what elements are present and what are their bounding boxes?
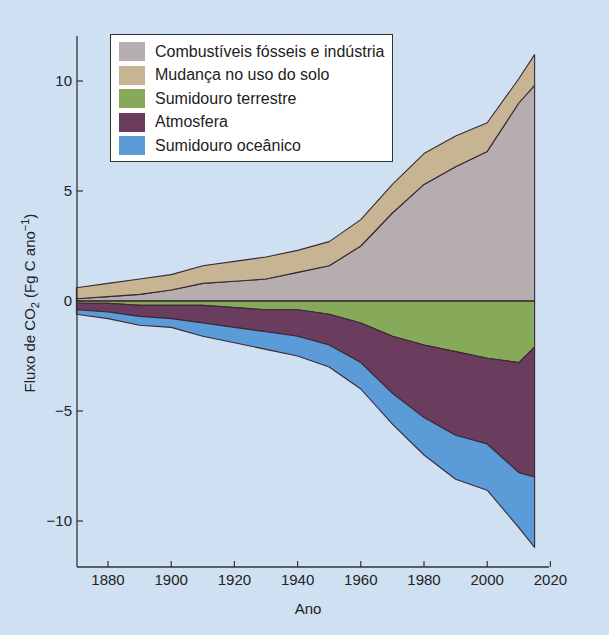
x-tick-label: 1900 (155, 571, 188, 588)
legend-swatch (119, 42, 145, 61)
legend-swatch (119, 136, 145, 155)
legend-swatch (119, 89, 145, 108)
legend-label: Mudança no uso do solo (155, 66, 329, 84)
y-tick-label: 5 (64, 182, 72, 199)
y-tick-label: 10 (55, 72, 72, 89)
x-tick-label: 1920 (218, 571, 251, 588)
legend-swatch (119, 113, 145, 132)
x-ticks: 18801900192019401960198020002020 (91, 561, 567, 588)
legend-item-fossil: Combustíveis fósseis e indústria (119, 40, 392, 64)
y-tick-label: −10 (47, 512, 72, 529)
y-tick-label: −5 (55, 402, 72, 419)
legend-item-ocean-sink: Sumidouro oceânico (119, 134, 392, 158)
x-tick-label: 1880 (91, 571, 124, 588)
legend-item-land-sink: Sumidouro terrestre (119, 87, 392, 111)
legend-item-atmosphere: Atmosfera (119, 111, 392, 135)
x-axis-title: Ano (295, 600, 322, 617)
y-axis-title: Fluxo de CO2 (Fg C ano−1) (19, 214, 41, 393)
legend-swatch (119, 66, 145, 85)
x-tick-label: 1960 (344, 571, 377, 588)
legend-item-land-use: Mudança no uso do solo (119, 64, 392, 88)
legend-label: Sumidouro oceânico (155, 137, 301, 155)
x-tick-label: 1980 (407, 571, 440, 588)
x-tick-label: 2000 (471, 571, 504, 588)
legend: Combustíveis fósseis e indústria Mudança… (110, 34, 393, 162)
legend-label: Sumidouro terrestre (155, 90, 296, 108)
y-tick-label: 0 (64, 292, 72, 309)
legend-label: Combustíveis fósseis e indústria (155, 43, 384, 61)
legend-label: Atmosfera (155, 113, 228, 131)
x-tick-label: 1940 (281, 571, 314, 588)
x-tick-label: 2020 (534, 571, 567, 588)
